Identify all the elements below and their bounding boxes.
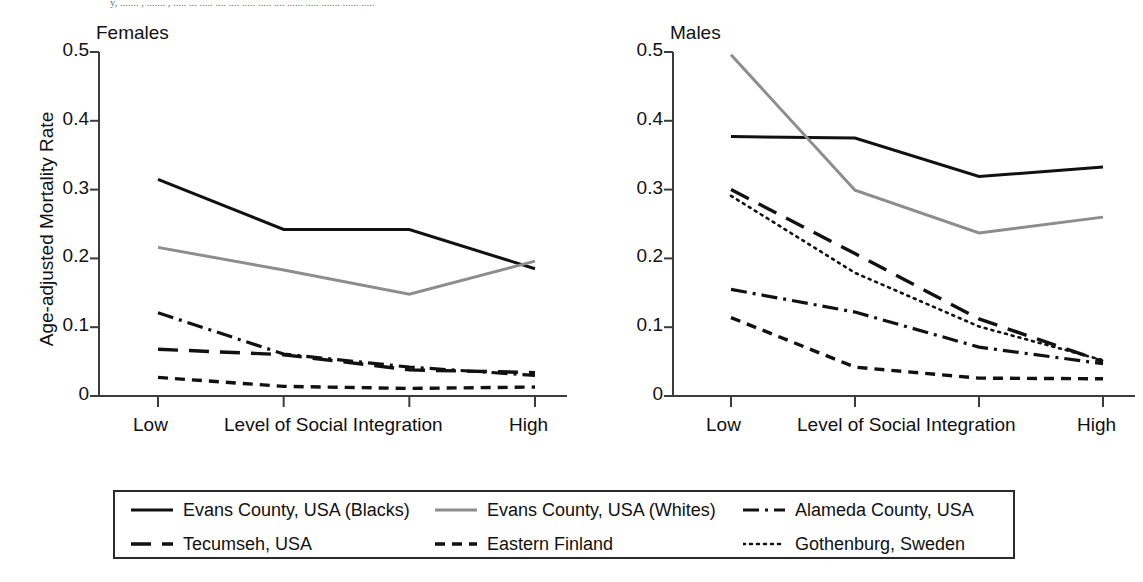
legend-label: Tecumseh, USA xyxy=(183,534,312,555)
x-tick-label-high: High xyxy=(509,414,548,436)
legend-item: Evans County, USA (Blacks) xyxy=(131,493,410,527)
legend-item: Alameda County, USA xyxy=(743,493,974,527)
y-tick-label: 0.3 xyxy=(595,177,663,199)
solid-gray-line-swatch xyxy=(435,502,477,518)
y-tick-label: 0.5 xyxy=(21,39,89,61)
series-line xyxy=(731,318,1103,379)
series-line xyxy=(158,349,535,372)
series-line xyxy=(158,179,535,268)
dash-dot-line-swatch xyxy=(743,502,785,518)
y-tick-label: 0.2 xyxy=(595,245,663,267)
series-line xyxy=(158,313,535,376)
series-line xyxy=(158,247,535,294)
series-line xyxy=(731,289,1103,363)
y-tick-label: 0.3 xyxy=(21,177,89,199)
y-tick-label: 0 xyxy=(595,383,663,405)
x-tick-label-high: High xyxy=(1077,414,1116,436)
legend-item: Evans County, USA (Whites) xyxy=(435,493,716,527)
legend-label: Gothenburg, Sweden xyxy=(795,534,965,555)
series-group-males xyxy=(731,55,1103,379)
y-tick-label: 0.4 xyxy=(21,108,89,130)
y-tick-label: 0.2 xyxy=(21,245,89,267)
x-axis-label: Level of Social Integration xyxy=(797,414,1016,436)
legend-label: Evans County, USA (Blacks) xyxy=(183,500,410,521)
series-line xyxy=(731,137,1103,177)
series-line xyxy=(731,196,1103,360)
legend-row: Tecumseh, USAEastern FinlandGothenburg, … xyxy=(115,527,1013,561)
legend-label: Eastern Finland xyxy=(487,534,613,555)
legend-row: Evans County, USA (Blacks)Evans County, … xyxy=(115,493,1013,527)
legend: Evans County, USA (Blacks)Evans County, … xyxy=(113,490,1015,559)
y-tick-label: 0.1 xyxy=(595,314,663,336)
figure-root: y, ....... , ....... , ..... ... ..... .… xyxy=(0,0,1143,582)
axis-group-males xyxy=(664,52,1135,407)
legend-item: Tecumseh, USA xyxy=(131,527,312,561)
series-line xyxy=(731,190,1103,362)
x-tick-label-low: Low xyxy=(706,414,741,436)
series-group-females xyxy=(158,179,535,388)
legend-item: Eastern Finland xyxy=(435,527,613,561)
short-dash-line-swatch xyxy=(435,536,477,552)
series-line xyxy=(158,377,535,388)
y-tick-label: 0 xyxy=(21,383,89,405)
legend-item: Gothenburg, Sweden xyxy=(743,527,965,561)
y-tick-label: 0.1 xyxy=(21,314,89,336)
legend-label: Alameda County, USA xyxy=(795,500,974,521)
dotted-line-swatch xyxy=(743,536,785,552)
series-line xyxy=(731,55,1103,233)
long-dash-line-swatch xyxy=(131,536,173,552)
y-tick-label: 0.4 xyxy=(595,108,663,130)
y-tick-label: 0.5 xyxy=(595,39,663,61)
charts-canvas xyxy=(0,0,1143,470)
x-tick-label-low: Low xyxy=(133,414,168,436)
solid-line-swatch xyxy=(131,502,173,518)
legend-label: Evans County, USA (Whites) xyxy=(487,500,716,521)
x-axis-label: Level of Social Integration xyxy=(224,414,443,436)
